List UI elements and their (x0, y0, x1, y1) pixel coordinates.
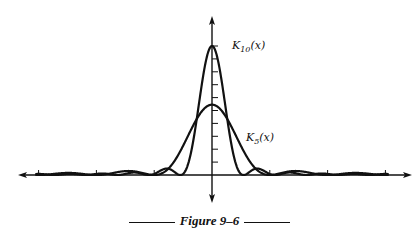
k5-label: K5(x) (245, 131, 274, 146)
caption-rule-left (129, 222, 175, 223)
figure-label: Figure 9–6 (180, 213, 240, 228)
caption-rule-right (244, 222, 290, 223)
figure-caption: Figure 9–6 (0, 213, 419, 229)
chart: K10(x) K5(x) (0, 0, 419, 239)
k10-label: K10(x) (231, 39, 265, 54)
series-labels: K10(x) K5(x) (231, 39, 274, 146)
